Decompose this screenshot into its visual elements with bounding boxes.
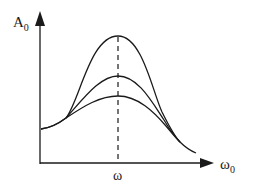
y-axis-label: A0 (13, 14, 29, 33)
y-axis-arrow-icon (35, 11, 45, 26)
x-axis-arrow-icon (200, 158, 214, 168)
resonance-diagram: A0 ω0 ω (0, 0, 257, 184)
curve-medium-damping (66, 76, 180, 142)
curve-high-damping (41, 96, 180, 142)
x-axis-label: ω0 (220, 156, 235, 175)
peak-frequency-label: ω (113, 168, 122, 183)
